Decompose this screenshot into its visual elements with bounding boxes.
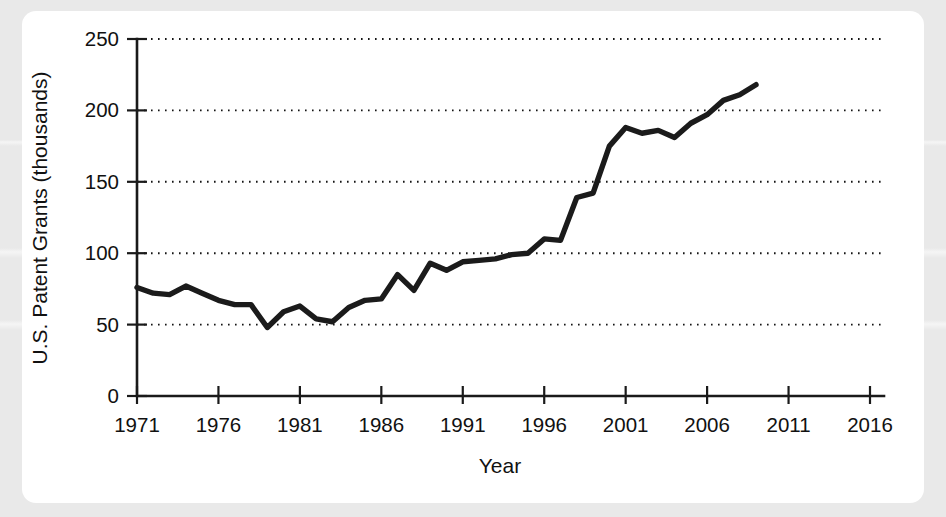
chart-figure: 050100150200250 197119761981198619911996… (0, 0, 946, 517)
svg-text:100: 100 (85, 241, 119, 264)
svg-text:2011: 2011 (767, 413, 811, 436)
svg-text:1996: 1996 (521, 413, 567, 436)
axis-spines (137, 39, 884, 396)
svg-text:1991: 1991 (440, 413, 486, 436)
svg-text:1981: 1981 (277, 413, 323, 436)
y-axis-tick-labels: 050100150200250 (85, 27, 119, 407)
svg-text:2016: 2016 (847, 413, 893, 436)
x-axis-title: Year (479, 454, 521, 477)
svg-text:2006: 2006 (684, 413, 730, 436)
x-axis-tick-labels: 1971197619811986199119962001200620112016 (114, 413, 893, 436)
svg-text:1976: 1976 (196, 413, 242, 436)
svg-text:250: 250 (85, 27, 119, 50)
svg-text:150: 150 (85, 170, 119, 193)
y-axis-title: U.S. Patent Grants (thousands) (28, 72, 51, 365)
svg-text:1986: 1986 (359, 413, 405, 436)
svg-text:50: 50 (96, 313, 119, 336)
data-series-line (137, 85, 756, 328)
svg-text:2001: 2001 (603, 413, 649, 436)
svg-text:1971: 1971 (114, 413, 160, 436)
gridlines (137, 39, 884, 325)
svg-text:200: 200 (85, 98, 119, 121)
svg-text:0: 0 (108, 384, 119, 407)
